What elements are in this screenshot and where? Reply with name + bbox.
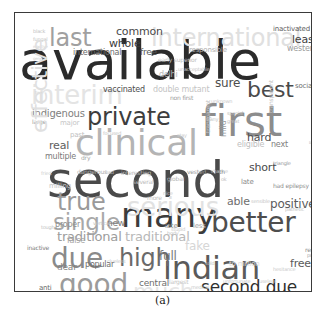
wordcloud-word: global: [167, 176, 184, 182]
wordcloud-word: next: [271, 141, 288, 149]
wordcloud-word: unknown: [211, 99, 232, 104]
wordcloud-word: major: [60, 120, 79, 127]
wordcloud-word: non first: [170, 95, 193, 101]
wordcloud-word: black: [33, 29, 45, 34]
wordcloud-word: tough: [41, 225, 55, 230]
wordcloud-word: better: [211, 209, 296, 236]
wordcloud-word: unacceptable: [178, 67, 209, 72]
wordcloud-word: dry: [81, 155, 90, 161]
wordcloud-word: fried: [41, 171, 51, 176]
wordcloud-word: triangle: [273, 161, 291, 166]
wordcloud-word: less: [193, 223, 206, 230]
wordcloud-word: proper: [55, 221, 80, 229]
wordcloud-word: sure: [215, 78, 240, 90]
wordcloud-word: late: [241, 179, 254, 186]
wordcloud-word: social: [295, 83, 312, 90]
wordcloud-word: transparent: [268, 80, 274, 113]
wordcloud-word: ok: [221, 177, 227, 182]
wordcloud-word: full: [159, 251, 177, 263]
wordcloud-word: stay: [177, 133, 187, 138]
wordcloud-word: eligible: [237, 141, 264, 149]
wordcloud-word: multiple: [45, 153, 76, 161]
wordcloud-word: pathetic: [285, 207, 304, 212]
wordcloud-word: milling: [49, 183, 71, 190]
wordcloud-word: popular: [85, 261, 114, 269]
wordcloud-word: stupid: [171, 227, 185, 232]
wordcloud-word: able: [227, 197, 250, 208]
wordcloud-word: traditional: [125, 231, 190, 244]
wordcloud-word: bad: [105, 170, 114, 175]
wordcloud-word: to million: [229, 261, 260, 268]
wordcloud-word: vested: [187, 169, 206, 175]
wordcloud-word: inactivated: [273, 26, 310, 33]
wordcloud-word: inactive: [27, 245, 49, 251]
wordcloud-word: rare: [311, 239, 312, 244]
wordcloud-word: sensible: [251, 199, 270, 204]
wordcloud-word: special: [227, 111, 243, 116]
wordcloud-word: western: [287, 45, 312, 53]
wordcloud-word: bound: [309, 141, 312, 145]
wordcloud-word: useless: [259, 279, 276, 284]
wordcloud-word: fake: [185, 241, 210, 253]
wordcloud-word: right: [311, 153, 312, 161]
wordcloud-word: had epilepsy: [273, 183, 309, 189]
wordcloud-word: delhi: [159, 71, 178, 79]
wordcloud-word: mild: [220, 120, 228, 137]
wordcloud-word: false: [67, 237, 85, 245]
wordcloud-word: anti: [39, 285, 52, 292]
wordcloud-word: dear: [57, 263, 77, 272]
figure-caption: (a): [0, 294, 325, 307]
wordcloud-word: nice: [163, 191, 173, 196]
wordcloud-word: largest: [169, 279, 188, 285]
wordcloud-word: interesting: [121, 170, 151, 176]
wordcloud-word: public: [307, 253, 312, 258]
wordcloud-word: effective: [29, 39, 51, 133]
wordcloud-word: real: [49, 141, 69, 152]
wordcloud-word: more: [147, 195, 162, 201]
wordcloud-word: hesitance: [273, 267, 295, 272]
figure-panel: availablesecondfirstmanyclinicalindianbe…: [0, 0, 325, 317]
wordcloud-word: last: [49, 27, 92, 51]
wordcloud-word: sold: [205, 261, 214, 266]
wordcloud-word: responsible: [189, 47, 227, 54]
wordcloud-word: free: [140, 48, 157, 57]
wordcloud-word: unfortunate: [223, 279, 250, 284]
wordcloud-word: transparent: [205, 100, 211, 133]
wordcloud-word: international: [73, 49, 121, 57]
wordcloud-word: great: [227, 119, 239, 124]
wordcloud-word: central: [139, 279, 169, 288]
wordcloud-word: agri: [311, 225, 312, 230]
wordcloud-word: early superior: [158, 57, 197, 63]
wordcloud-word: focused: [103, 131, 121, 136]
wordcloud-word: th: [219, 169, 225, 175]
wordcloud-word: vaccinated: [103, 86, 145, 94]
wordcloud-word: past: [70, 132, 84, 139]
wordcloud-canvas: availablesecondfirstmanyclinicalindianbe…: [15, 13, 311, 291]
wordcloud-word: medical: [191, 285, 209, 290]
wordcloud-frame: availablesecondfirstmanyclinicalindianbe…: [14, 12, 312, 292]
wordcloud-word: double mutant: [153, 86, 209, 94]
wordcloud-word: serious: [127, 195, 219, 220]
wordcloud-word: vertical: [93, 221, 110, 226]
wordcloud-word: dangerous: [77, 169, 107, 175]
wordcloud-word: several: [133, 179, 153, 185]
